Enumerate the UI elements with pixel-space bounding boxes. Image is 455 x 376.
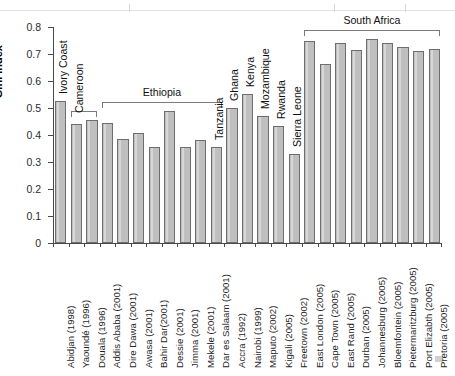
bar (117, 139, 128, 243)
bar (413, 51, 424, 243)
bar (397, 47, 408, 243)
y-axis-title: Gini index (0, 45, 4, 98)
group-label: Kenya (244, 57, 256, 87)
y-tick-mark (48, 54, 53, 55)
bar (180, 147, 191, 243)
group-label: Ethiopia (102, 86, 222, 98)
y-tick-label: 0.2 (26, 183, 41, 195)
x-tick-label: Durban (2005) (360, 306, 371, 368)
x-tick-label: Awasa (2001) (143, 309, 154, 368)
y-tick-label: 0.8 (26, 21, 41, 33)
group-label: Cameroon (73, 64, 85, 113)
bar (149, 147, 160, 243)
y-tick-label: 0 (35, 237, 41, 249)
x-tick-mark (100, 243, 101, 247)
x-tick-label: East Rand (2005) (345, 293, 356, 368)
x-tick-label: Dire Dawa (2001) (127, 293, 138, 368)
group-label: South Africa (304, 14, 440, 26)
bar (102, 123, 113, 243)
x-tick-mark (395, 243, 396, 247)
bar (71, 124, 82, 243)
x-tick-label: Mekele (2001) (205, 307, 216, 368)
x-tick-mark (209, 243, 210, 247)
x-tick-label: Pretoria (2005) (438, 304, 449, 368)
page-rule-tick (405, 4, 406, 12)
x-tick-mark (115, 243, 116, 247)
bar (273, 126, 284, 243)
y-tick-mark (48, 81, 53, 82)
x-tick-label: Douala (1996) (96, 307, 107, 368)
y-tick-label: 0.1 (26, 210, 41, 222)
x-tick-mark (255, 243, 256, 247)
y-tick-label: 0.5 (26, 102, 41, 114)
x-tick-label: Bloemfontein (2005) (392, 282, 403, 368)
x-tick-mark (177, 243, 178, 247)
x-tick-mark (146, 243, 147, 247)
bar (242, 94, 253, 243)
x-tick-mark (162, 243, 163, 247)
y-tick-label: 0.3 (26, 156, 41, 168)
x-tick-label: East London (2005) (314, 284, 325, 368)
y-tick-label: 0.4 (26, 129, 41, 141)
y-tick-mark (48, 135, 53, 136)
x-tick-mark (286, 243, 287, 247)
bar (195, 140, 206, 243)
x-tick-label: Accra (1992) (236, 313, 247, 368)
bar (164, 111, 175, 243)
x-axis-line (53, 243, 442, 244)
x-tick-mark (411, 243, 412, 247)
bar (429, 49, 440, 243)
x-tick-mark (349, 243, 350, 247)
x-tick-label: Cape Town (2005) (329, 290, 340, 368)
x-tick-mark (240, 243, 241, 247)
bar (335, 43, 346, 243)
group-bracket (102, 102, 222, 108)
x-tick-label: Yaoundé (1996) (80, 300, 91, 368)
x-tick-label: Nairobi (1999) (252, 307, 263, 368)
x-tick-label: Maputo (2002) (267, 306, 278, 368)
bar (55, 101, 66, 243)
group-bracket (304, 30, 440, 36)
y-tick-mark (48, 216, 53, 217)
x-tick-mark (333, 243, 334, 247)
page-rule-tick (129, 4, 130, 12)
group-label: Mozambique (259, 48, 271, 109)
page-rule-tick (334, 4, 335, 12)
x-tick-label: Johannesburg (2005) (376, 277, 387, 368)
x-tick-mark (69, 243, 70, 247)
x-tick-label: Abidjan (1998) (65, 306, 76, 368)
x-tick-label: Port Elizabth (2005) (423, 283, 434, 368)
bar (86, 120, 97, 243)
x-tick-label: Dar es Salaam (2001) (220, 274, 231, 368)
x-tick-label: Bahir Dar(2001) (158, 300, 169, 368)
x-tick-mark (53, 243, 54, 247)
bar (304, 41, 315, 243)
bar (320, 64, 331, 243)
group-label: Ghana (228, 69, 240, 101)
x-tick-mark (271, 243, 272, 247)
x-tick-label: Dessie (2001) (174, 308, 185, 368)
bar (133, 133, 144, 243)
page-rule (0, 10, 455, 11)
bar (257, 116, 268, 243)
bar (211, 147, 222, 243)
x-tick-label: Addis Ababa (2001) (111, 284, 122, 368)
x-tick-mark (302, 243, 303, 247)
y-axis-tick-labels: Gini index 00.10.20.30.40.50.60.70.8 (0, 27, 50, 244)
y-tick-mark (48, 108, 53, 109)
x-tick-mark (318, 243, 319, 247)
x-tick-mark (364, 243, 365, 247)
x-tick-mark (380, 243, 381, 247)
y-tick-label: 0.7 (26, 48, 41, 60)
group-label: Sierra Leone (291, 87, 303, 148)
x-tick-label: Jimma (2001) (189, 309, 200, 368)
x-tick-mark (441, 243, 442, 247)
group-label: Ivory Coast (57, 40, 69, 94)
x-tick-label: Pietermaritzburg (2005) (407, 267, 418, 368)
bar (289, 154, 300, 243)
y-tick-mark (48, 189, 53, 190)
bar (366, 39, 377, 243)
x-tick-mark (224, 243, 225, 247)
x-axis-tick-labels: Abidjan (1998)Yaoundé (1996)Douala (1996… (53, 248, 442, 373)
bar (382, 43, 393, 243)
